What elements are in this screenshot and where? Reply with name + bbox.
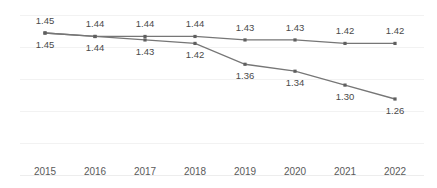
x-axis-tick-label: 2019 [234, 166, 257, 177]
data-point-marker [343, 84, 346, 87]
x-axis-tick-label: 2018 [184, 166, 207, 177]
data-point-marker [393, 97, 396, 100]
x-axis-tick-label: 2020 [284, 166, 307, 177]
line-chart: 1.451.441.441.441.431.431.421.421.451.44… [0, 0, 437, 188]
data-label: 1.45 [36, 39, 55, 50]
x-axis-tick-label: 2022 [384, 166, 407, 177]
data-label: 1.43 [286, 22, 305, 33]
data-label: 1.42 [336, 25, 355, 36]
data-label: 1.42 [386, 25, 405, 36]
data-point-marker [143, 38, 146, 41]
data-label: 1.44 [186, 18, 205, 29]
x-axis-tick-label: 2017 [134, 166, 157, 177]
data-point-marker [193, 42, 196, 45]
data-label: 1.30 [336, 91, 355, 102]
data-point-marker [43, 31, 46, 34]
gridlines [20, 16, 424, 176]
data-point-marker [143, 35, 146, 38]
data-label: 1.26 [386, 105, 405, 116]
data-label: 1.43 [136, 46, 155, 57]
data-label: 1.36 [236, 70, 255, 81]
data-point-marker [93, 35, 96, 38]
data-point-marker [193, 35, 196, 38]
data-label: 1.44 [86, 42, 105, 53]
x-axis-tick-label: 2015 [34, 166, 57, 177]
data-point-marker [243, 63, 246, 66]
data-label-layer: 1.451.441.441.441.431.431.421.421.451.44… [36, 15, 405, 116]
data-point-marker [293, 38, 296, 41]
data-label: 1.44 [86, 18, 105, 29]
data-label: 1.43 [236, 22, 255, 33]
data-label: 1.34 [286, 77, 305, 88]
data-point-marker [243, 38, 246, 41]
data-label: 1.44 [136, 18, 155, 29]
data-point-marker [343, 42, 346, 45]
data-point-marker [293, 70, 296, 73]
data-label: 1.42 [186, 49, 205, 60]
x-axis-tick-label: 2021 [334, 166, 357, 177]
data-point-marker [393, 42, 396, 45]
data-label: 1.45 [36, 15, 55, 26]
chart-plot-area: 1.451.441.441.441.431.431.421.421.451.44… [0, 0, 437, 188]
x-axis-tick-label: 2016 [84, 166, 107, 177]
